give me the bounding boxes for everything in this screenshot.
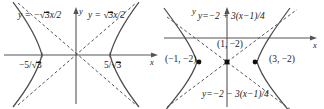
- y-axis-label-left: y: [79, 6, 83, 16]
- point-label-right: (3, −2): [269, 55, 295, 65]
- point-label-left: (−1, −2): [165, 55, 196, 65]
- vertex-label-negative: −5/√3: [19, 61, 42, 71]
- asymptote-label-left: y = −√3x/2: [18, 11, 61, 21]
- point-vertex-left: [197, 60, 202, 65]
- asymptote-equation-top: y=−2 + 3(x−1)/4: [198, 12, 265, 22]
- panel-hyperbola-translated: y=−2 + 3(x−1)/4 y=−2 − 3(x−1)/4 (−1, −2)…: [162, 0, 324, 109]
- point-vertex-right: [253, 60, 258, 65]
- y-axis-label-right: y: [192, 6, 196, 16]
- right-marked-points: [197, 60, 258, 65]
- asymptote-equation-bottom: y=−2 − 3(x−1)/4: [202, 90, 269, 100]
- panel-hyperbola-standard: y = −√3x/2 y = √3x/2 −5/√3 5/√3 x y: [0, 0, 162, 109]
- asymptote-label-right: y = √3x/2: [88, 11, 125, 21]
- x-axis-label-left: x: [150, 57, 154, 67]
- point-center: [225, 60, 230, 65]
- vertex-label-positive: 5/√3: [104, 61, 121, 71]
- point-label-center: (1, −2): [217, 40, 243, 50]
- hyperbola-figure: y = −√3x/2 y = √3x/2 −5/√3 5/√3 x y: [0, 0, 324, 109]
- x-axis-label-right: x: [313, 40, 317, 50]
